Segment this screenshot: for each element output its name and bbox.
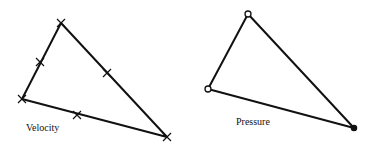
velocity-triangle [22,23,167,137]
circle-marker-icon [245,11,251,17]
velocity-label: Velocity [26,123,59,133]
cross-marker-icon [103,69,111,77]
pressure-triangle [208,14,354,128]
pressure-label: Pressure [236,117,270,127]
pressure-element [205,11,357,131]
circle-marker-icon [205,86,211,92]
diagram-canvas: Velocity Pressure [0,0,376,148]
circle-marker-icon [351,125,356,130]
pressure-node-markers [205,11,357,131]
cross-marker-icon [57,19,65,27]
